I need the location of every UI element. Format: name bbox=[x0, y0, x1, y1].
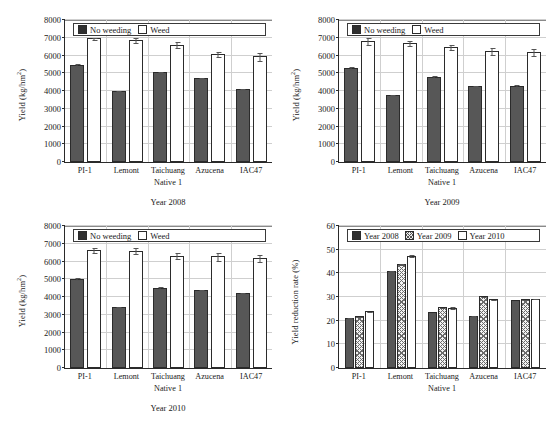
bar-group bbox=[106, 20, 147, 162]
bar-group bbox=[505, 20, 546, 162]
y-axis-tick-label: 4000 bbox=[318, 86, 335, 96]
chart-panel-year-2008: Yield (kg/hm2)01000200030004000500060007… bbox=[18, 6, 278, 211]
y-axis-title: Yield (kg/hm2) bbox=[16, 20, 30, 170]
error-bar bbox=[349, 318, 350, 320]
x-axis-tick-label: PI-1 bbox=[338, 372, 380, 384]
legend-item: Year 2010 bbox=[458, 231, 505, 241]
chart-panel-year-2009: Yield (kg/hm2)01000200030004000500060007… bbox=[292, 6, 552, 211]
bar-group bbox=[231, 226, 272, 368]
legend-label: Year 2010 bbox=[470, 231, 505, 241]
bar-white bbox=[489, 299, 498, 368]
error-bar bbox=[516, 85, 517, 88]
legend-swatch-white bbox=[138, 231, 147, 240]
bar-group bbox=[106, 226, 147, 368]
bar-white bbox=[527, 52, 541, 162]
error-bar bbox=[177, 253, 178, 260]
y-axis-tick-label: 3000 bbox=[318, 104, 335, 114]
bar-white bbox=[403, 43, 417, 162]
legend-swatch-white bbox=[138, 25, 147, 34]
y-axis-tick-label: 5000 bbox=[318, 68, 335, 78]
y-axis-tick-label: 0 bbox=[331, 363, 335, 373]
error-bar bbox=[401, 264, 402, 267]
legend-swatch-dark bbox=[78, 231, 87, 240]
panel-title: Year 2010 bbox=[64, 403, 272, 415]
y-axis-tick-label: 10 bbox=[327, 339, 336, 349]
bar-white bbox=[170, 45, 184, 162]
plot-area: 010002000300040005000600070008000No weed… bbox=[338, 20, 546, 163]
x-axis-tick-label: IAC47 bbox=[230, 166, 272, 178]
error-bar bbox=[259, 255, 260, 263]
error-bar bbox=[259, 53, 260, 62]
bar-group bbox=[231, 20, 272, 162]
bar-dark bbox=[153, 288, 167, 368]
plot-area-wrapper: 010002000300040005000600070008000No weed… bbox=[338, 20, 546, 163]
chart-legend: No weedingWeed bbox=[347, 23, 540, 36]
bar-group bbox=[148, 226, 189, 368]
error-bar bbox=[351, 67, 352, 70]
bar-white bbox=[211, 256, 225, 368]
error-bar bbox=[118, 307, 119, 309]
error-bar bbox=[242, 293, 243, 296]
chart-legend: Year 2008Year 2009Year 2010 bbox=[347, 229, 540, 242]
x-axis-tick-label: IAC47 bbox=[504, 166, 546, 178]
bar-dark bbox=[112, 307, 126, 368]
bar-dark bbox=[386, 95, 400, 162]
y-axis-tick-label: 8000 bbox=[318, 15, 335, 25]
y-axis-title: Yield (kg/hm2) bbox=[290, 20, 304, 170]
bar-hatch bbox=[397, 264, 406, 368]
error-bar bbox=[160, 72, 161, 75]
y-axis-tick-label: 7000 bbox=[318, 33, 335, 43]
x-axis-tick-labels: PI-1LemontTaichuangAzucenaIAC47 bbox=[64, 166, 272, 178]
chart-panel-year-2010: Yield (kg/hm2)01000200030004000500060007… bbox=[18, 212, 278, 417]
legend-label: No weeding bbox=[90, 231, 131, 241]
bar-dark bbox=[511, 300, 520, 368]
y-axis-tick-label: 6000 bbox=[44, 51, 61, 61]
bar-group bbox=[65, 20, 106, 162]
error-bar bbox=[77, 64, 78, 68]
y-axis-tick-label: 7000 bbox=[44, 33, 61, 43]
error-bar bbox=[135, 38, 136, 45]
bar-white bbox=[170, 256, 184, 368]
bar-dark bbox=[70, 279, 84, 368]
bar-white bbox=[531, 299, 540, 368]
bar-group bbox=[189, 226, 230, 368]
x-axis-tick-label: Taichuang bbox=[421, 372, 463, 384]
y-axis-title: Yield reduction rate (%) bbox=[290, 222, 304, 382]
error-bar bbox=[201, 290, 202, 292]
bar-group bbox=[189, 20, 230, 162]
legend-item: No weeding bbox=[78, 25, 131, 35]
legend-label: Weed bbox=[424, 25, 443, 35]
error-bar bbox=[392, 95, 393, 97]
legend-label: Year 2009 bbox=[417, 231, 452, 241]
panel-title: Year 2009 bbox=[338, 197, 546, 209]
bar-dark bbox=[469, 316, 478, 368]
y-axis-tick-label: 8000 bbox=[44, 15, 61, 25]
bar-dark bbox=[70, 65, 84, 162]
error-bar bbox=[475, 86, 476, 89]
plot-area-wrapper: 0102030405060Year 2008Year 2009Year 2010 bbox=[338, 226, 546, 369]
error-bar bbox=[242, 89, 243, 91]
legend-label: Weed bbox=[150, 231, 169, 241]
x-axis-tick-label: Azucena bbox=[463, 166, 505, 178]
error-bar bbox=[492, 48, 493, 56]
error-bar bbox=[368, 38, 369, 46]
error-bar bbox=[533, 49, 534, 57]
error-bar bbox=[391, 271, 392, 274]
error-bar bbox=[473, 316, 474, 317]
x-axis-tick-label: Lemont bbox=[380, 166, 422, 178]
y-axis-tick-label: 4000 bbox=[44, 86, 61, 96]
x-axis-tick-label: Lemont bbox=[380, 372, 422, 384]
bar-dark bbox=[345, 318, 354, 368]
bar-hatch bbox=[438, 307, 447, 368]
figure-panel-grid: Yield (kg/hm2)01000200030004000500060007… bbox=[0, 0, 556, 422]
y-axis-tick-label: 60 bbox=[327, 221, 336, 231]
y-axis-tick-label: 4000 bbox=[44, 292, 61, 302]
x-axis-sub-label: Native 1 bbox=[64, 178, 272, 189]
chart-panel-yield-reduction-rate: Yield reduction rate (%)0102030405060Yea… bbox=[292, 212, 552, 417]
legend-label: Year 2008 bbox=[364, 231, 399, 241]
legend-item: Weed bbox=[412, 25, 443, 35]
legend-item: No weeding bbox=[78, 231, 131, 241]
legend-swatch-dark bbox=[352, 25, 361, 34]
error-bar bbox=[201, 78, 202, 80]
bar-dark bbox=[427, 77, 441, 162]
